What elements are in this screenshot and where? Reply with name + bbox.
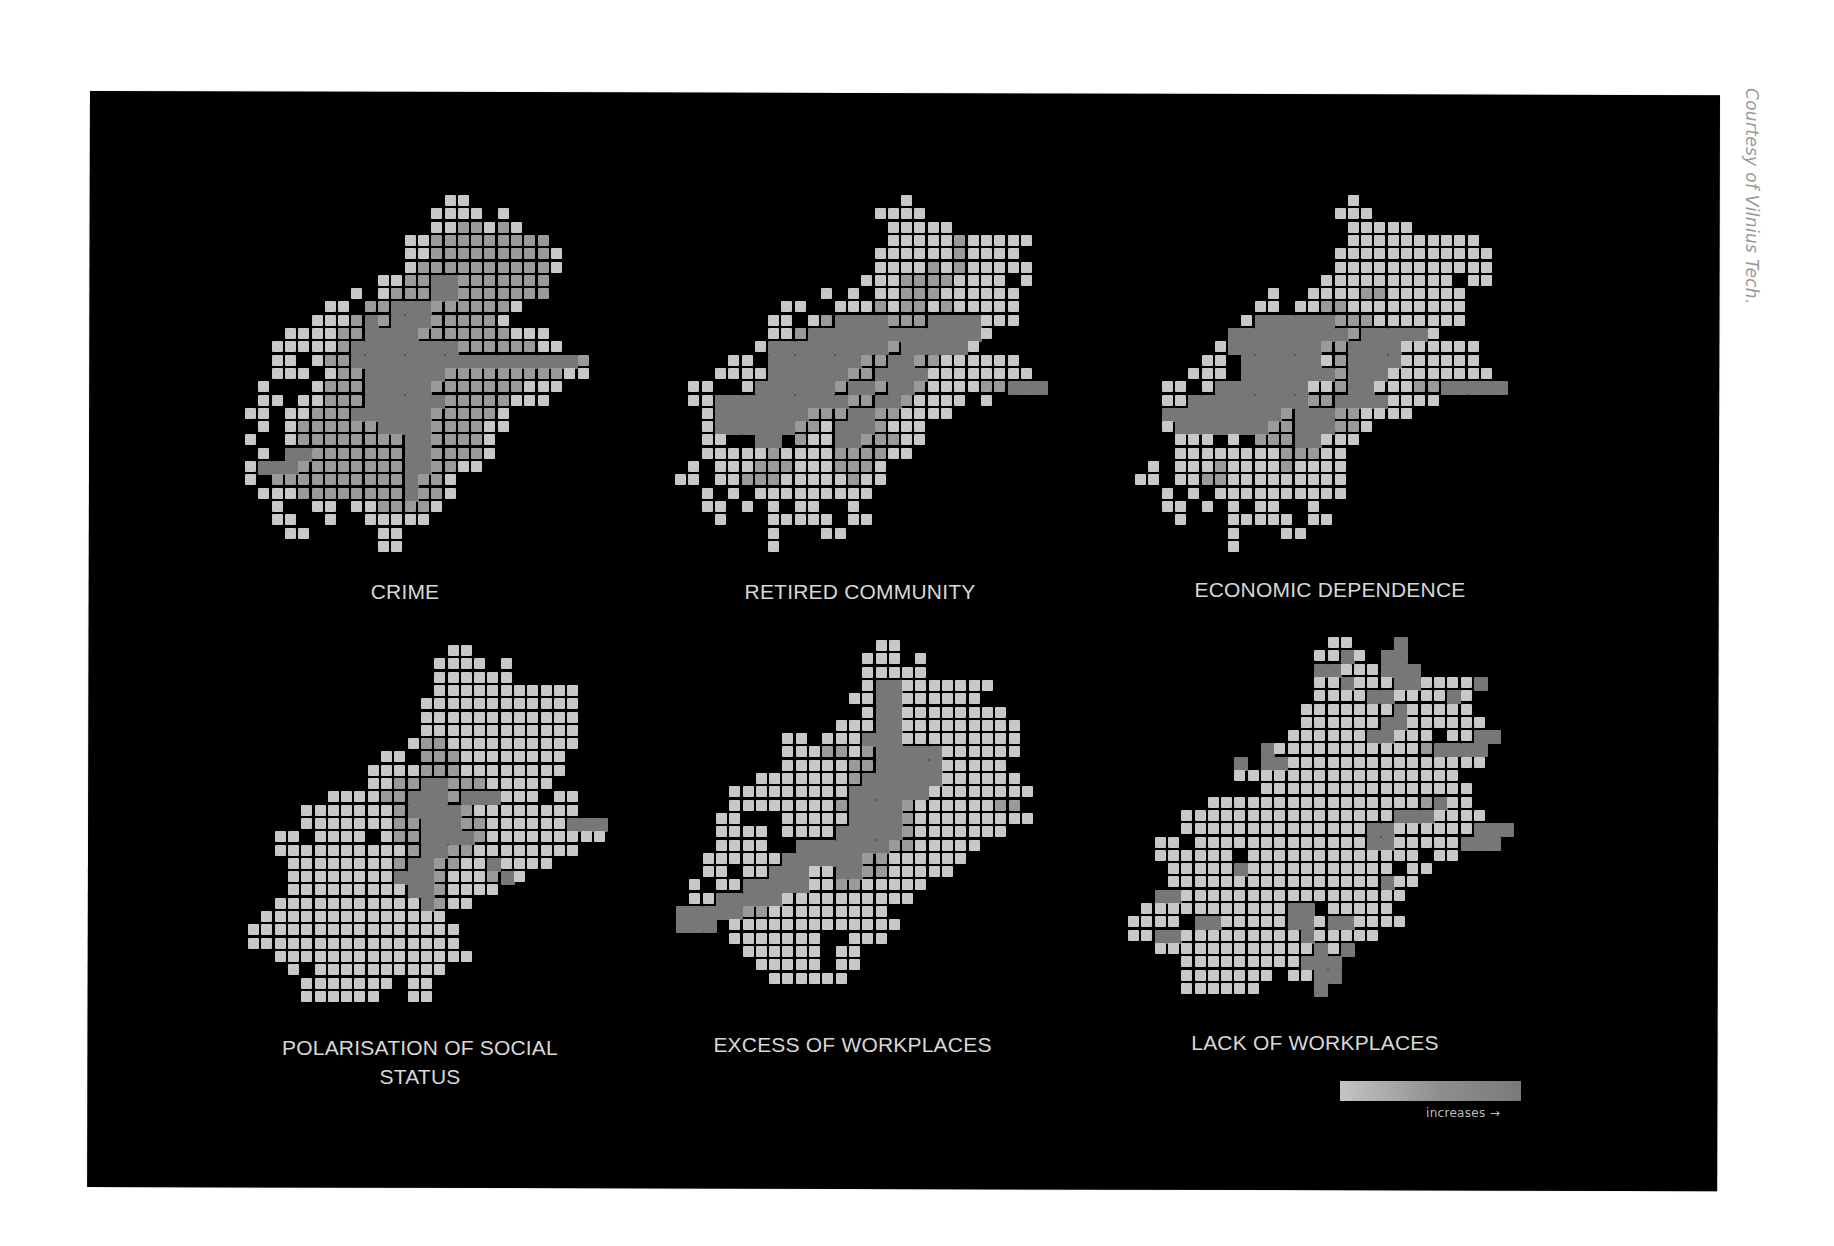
grid-cell — [554, 831, 565, 842]
grid-cell — [434, 698, 445, 709]
grid-cell — [408, 831, 419, 842]
grid-cell — [995, 786, 1006, 797]
grid-cell — [368, 845, 379, 856]
grid-cell — [821, 448, 832, 459]
grid-cell — [1367, 930, 1378, 941]
grid-cell — [461, 725, 472, 736]
grid-cell — [1341, 717, 1352, 728]
grid-cell — [1288, 797, 1299, 808]
grid-cell — [258, 488, 269, 499]
grid-cell — [1367, 677, 1378, 688]
grid-cell — [328, 898, 339, 909]
grid-cell — [981, 328, 992, 339]
grid-cell — [1274, 943, 1285, 954]
grid-cell — [821, 381, 835, 395]
grid-cell — [368, 911, 379, 922]
grid-cell — [474, 751, 485, 762]
grid-cell — [434, 898, 445, 909]
grid-cell — [1295, 448, 1306, 459]
grid-cell — [354, 978, 365, 989]
grid-cell — [1202, 381, 1213, 392]
grid-cell — [954, 368, 965, 379]
grid-cell — [434, 778, 448, 792]
grid-cell — [968, 235, 979, 246]
grid-cell — [551, 341, 562, 352]
grid-cell — [394, 765, 405, 776]
grid-cell — [703, 919, 717, 933]
grid-cell — [888, 448, 899, 459]
grid-cell — [498, 275, 509, 286]
grid-cell — [822, 800, 833, 811]
grid-cell — [1407, 690, 1418, 701]
grid-cell — [471, 355, 485, 369]
grid-cell — [902, 773, 916, 787]
grid-cell — [1261, 823, 1272, 834]
grid-cell — [821, 341, 835, 355]
grid-cell — [394, 898, 405, 909]
grid-cell — [836, 760, 847, 771]
grid-cell — [1454, 315, 1465, 326]
grid-cell — [861, 488, 872, 499]
grid-cell — [1341, 677, 1355, 691]
grid-cell — [258, 421, 269, 432]
grid-cell — [445, 195, 456, 206]
grid-cell — [354, 831, 365, 842]
grid-cell — [338, 301, 349, 312]
grid-cell — [1321, 395, 1332, 406]
grid-cell — [849, 720, 860, 731]
grid-cell — [702, 381, 713, 392]
grid-cell — [341, 951, 352, 962]
grid-cell — [338, 408, 349, 419]
grid-cell — [715, 421, 729, 435]
grid-cell — [1021, 235, 1032, 246]
grid-cell — [288, 871, 299, 882]
grid-cell — [1308, 421, 1322, 435]
grid-cell — [889, 879, 900, 890]
grid-cell — [554, 712, 565, 723]
grid-cell — [275, 845, 286, 856]
grid-cell — [1301, 943, 1312, 954]
grid-cell — [487, 725, 498, 736]
grid-cell — [1314, 757, 1325, 768]
grid-cell — [484, 408, 495, 419]
grid-cell — [941, 341, 955, 355]
grid-cell — [1281, 514, 1292, 525]
grid-cell — [1261, 890, 1272, 901]
grid-cell — [368, 858, 379, 869]
grid-cell — [782, 906, 793, 917]
grid-cell — [1341, 930, 1352, 941]
grid-cell — [471, 275, 482, 286]
grid-cell — [689, 919, 703, 933]
grid-cell — [995, 720, 1006, 731]
grid-cell — [1228, 328, 1242, 342]
grid-cell — [1168, 916, 1179, 927]
grid-cell — [378, 488, 389, 499]
grid-cell — [1394, 757, 1405, 768]
grid-cell — [498, 381, 509, 392]
grid-cell — [1428, 301, 1439, 312]
grid-cell — [378, 461, 389, 472]
grid-cell — [862, 773, 876, 787]
grid-cell — [445, 488, 456, 499]
grid-cell — [1181, 983, 1192, 994]
grid-cell — [1221, 890, 1232, 901]
grid-cell — [982, 733, 993, 744]
grid-cell — [487, 845, 498, 856]
grid-cell — [1009, 786, 1020, 797]
grid-cell — [809, 959, 820, 970]
grid-cell — [458, 288, 469, 299]
grid-cell — [1341, 637, 1352, 648]
grid-cell — [1321, 488, 1332, 499]
grid-cell — [1367, 823, 1381, 837]
grid-cell — [929, 760, 943, 774]
grid-cell — [809, 840, 823, 854]
grid-cell — [1181, 970, 1192, 981]
grid-cell — [1215, 408, 1229, 422]
grid-cell — [354, 991, 365, 1002]
grid-cell — [527, 858, 538, 869]
grid-cell — [1241, 461, 1252, 472]
grid-cell — [1175, 408, 1189, 422]
grid-cell — [368, 805, 379, 816]
grid-cell — [875, 301, 886, 312]
grid-cell — [461, 738, 472, 749]
